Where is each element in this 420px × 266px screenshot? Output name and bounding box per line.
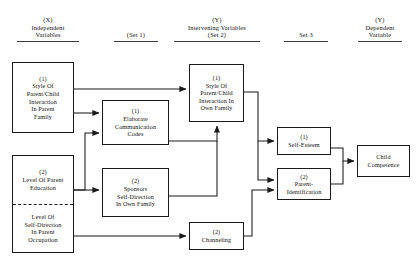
node-label: Parent-Identification [287,180,322,195]
node-label: Self-Esteem [288,141,319,149]
column-header-line1: (X) [43,16,52,23]
edge-parent-identification-to-child-competence [331,161,343,184]
edge-sponsors-to-style-own [169,141,217,196]
node-label: SponsorsSelf-DirectionIn Own Family [116,185,155,208]
node-sponsors-self-direction[interactable]: (2) SponsorsSelf-DirectionIn Own Family [102,168,169,217]
diagram-canvas: (X) Independent Variables (Set 1) (Y) In… [0,0,420,266]
node-parent-identification[interactable]: (2) Parent-Identification [277,168,331,200]
node-self-esteem[interactable]: (1) Self-Esteem [277,127,331,155]
column-header-line3: Variable [369,31,392,38]
column-header-line2: (Set 1) [127,31,145,38]
node-number: (2) [213,228,221,236]
column-header-dependent: (Y) Dependent Variable [345,16,415,42]
column-header-set1: (Set 1) [98,31,174,42]
column-header-rule [358,41,402,42]
node-elaborate-codes[interactable]: (1) ElaborateCommunicationCodes [102,100,169,145]
column-header-line1: (Y) [212,16,221,23]
node-style-parent-family[interactable]: (1) Style OfParent/ChildInteractionIn Pa… [12,62,74,133]
column-header-set3: Set 3 [268,31,344,42]
node-label: Style OfParent/ChildInteraction InOwn Fa… [199,82,234,112]
node-number: (2) [132,177,140,185]
node-number: (1) [300,133,308,141]
edge-self-esteem-to-child-competence [331,148,354,161]
node-number: (1) [39,75,47,83]
node-number: (2) [300,173,308,181]
edge-style-own-to-self-esteem [244,92,274,141]
column-header-rule [114,41,158,42]
node-number: (2) [39,168,47,176]
node-label: Channeling [202,236,232,244]
column-header-line2: Independent [31,24,64,31]
node-style-own-family[interactable]: (1) Style OfParent/ChildInteraction InOw… [189,64,244,122]
node-label: Style OfParent/ChildInteractionIn Parent… [27,82,59,120]
node-parent-background[interactable]: (2) Level Of ParentEducation Level OfSel… [12,155,74,253]
column-header-rule [284,41,328,42]
column-header-line3: (Set 2) [208,31,226,38]
edge-channeling-to-parent-identification [244,190,274,236]
node-label: Level OfSelf-DirectionIn ParentOccupatio… [25,213,62,243]
column-header-line2: Intervening Variables [188,24,246,31]
node-parent-education[interactable]: (2) Level Of ParentEducation [13,156,73,204]
edge-education-to-codes [74,133,99,190]
column-header-line2: Set 3 [299,31,313,38]
node-label: ElaborateCommunicationCodes [115,115,156,138]
column-header-rule [174,41,260,42]
column-header-intervening: (Y) Intervening Variables (Set 2) [167,16,267,42]
node-self-direction-occupation[interactable]: Level OfSelf-DirectionIn ParentOccupatio… [13,204,73,253]
node-number: (1) [213,74,221,82]
node-label: Level Of ParentEducation [22,176,63,191]
column-header-line2: Dependent [365,24,394,31]
column-header-line1: (Y) [375,16,384,23]
node-channeling[interactable]: (2) Channeling [189,222,244,250]
column-header-independent: (X) Independent Variables [8,16,88,42]
node-number: (1) [132,107,140,115]
edge-style-own-to-parent-identification [258,141,274,180]
node-label: ChildCompetence [368,153,400,168]
edge-codes-to-style-own [169,126,217,141]
column-header-line3: Variables [35,31,60,38]
column-header-rule [17,41,79,42]
node-child-competence[interactable]: ChildCompetence [357,145,410,177]
